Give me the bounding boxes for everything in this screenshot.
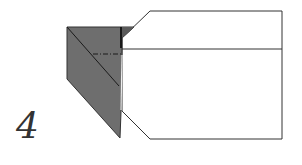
paper-body — [122, 11, 282, 139]
step-number: 4 — [16, 108, 39, 144]
origami-diagram — [0, 0, 302, 165]
